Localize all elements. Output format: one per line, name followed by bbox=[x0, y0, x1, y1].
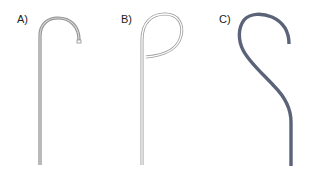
shape-c-s-curve bbox=[239, 14, 291, 166]
shape-b-loop bbox=[142, 14, 182, 165]
shape-a-j-hook bbox=[40, 18, 81, 165]
catheter-shapes-diagram bbox=[0, 0, 311, 173]
